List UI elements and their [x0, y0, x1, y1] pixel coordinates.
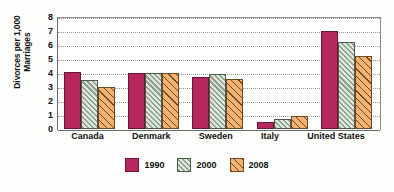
y-tick-label: 6: [37, 40, 53, 50]
x-tick-label: Sweden: [199, 131, 233, 141]
legend-label: 2000: [196, 160, 216, 170]
x-tick-label: United States: [307, 131, 365, 141]
legend-swatch-icon: [125, 158, 139, 172]
x-axis-labels: CanadaDenmarkSwedenItalyUnited States: [57, 131, 379, 147]
legend-swatch-icon: [177, 158, 191, 172]
legend-item-2000[interactable]: 2000: [177, 158, 216, 172]
gridline-3: [58, 88, 380, 89]
y-tick-label: 0: [37, 124, 53, 134]
plot-area: [57, 17, 381, 130]
y-tick-label: 8: [37, 12, 53, 22]
x-tick-label: Italy: [261, 131, 279, 141]
y-tick-label: 1: [37, 110, 53, 120]
y-tick-label: 7: [37, 26, 53, 36]
y-tick-label: 5: [37, 54, 53, 64]
y-tick-label: 4: [37, 68, 53, 78]
gridline-4: [58, 74, 380, 75]
chart-legend: 199020002008: [0, 158, 394, 172]
gridline-6: [58, 46, 380, 47]
x-tick-label: Canada: [71, 131, 104, 141]
gridline-2: [58, 102, 380, 103]
legend-label: 1990: [144, 160, 164, 170]
y-tick-label: 3: [37, 82, 53, 92]
legend-item-2008[interactable]: 2008: [230, 158, 269, 172]
x-tick-label: Denmark: [132, 131, 171, 141]
gridline-7: [58, 32, 380, 33]
legend-item-1990[interactable]: 1990: [125, 158, 164, 172]
y-axis-title: Divorces per 1,000 Marriages: [4, 0, 40, 111]
gridline-8: [58, 18, 380, 19]
gridline-1: [58, 116, 380, 117]
legend-swatch-icon: [230, 158, 244, 172]
gridlines-layer: [58, 18, 380, 130]
legend-label: 2008: [249, 160, 269, 170]
chart-figure: Divorces per 1,000 Marriages 012345678 C…: [0, 0, 394, 192]
y-tick-label: 2: [37, 96, 53, 106]
gridline-5: [58, 60, 380, 61]
